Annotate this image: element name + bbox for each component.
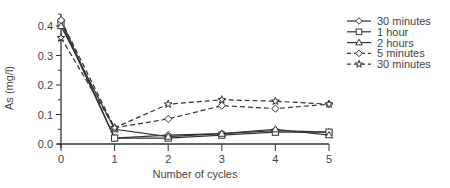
series-30-minutes-solid [57,17,332,142]
y-axis-title: As (mg/l) [3,66,15,110]
series-line [61,26,329,137]
axes: 0.00.10.20.30.4012345 [38,14,332,165]
series-line [61,20,329,128]
y-tick-label: 0.2 [38,79,53,91]
x-tick-label: 0 [58,153,64,165]
legend: 30 minutes1 hour2 hours5 minutes30 minut… [347,15,431,70]
diamond-marker [356,50,363,57]
y-tick-label: 0.3 [38,50,53,62]
diamond-marker [356,18,363,25]
series-1-hour-solid [58,20,332,141]
series-5-minutes-dashed [57,17,332,132]
series-line [61,20,329,138]
star-marker [57,34,65,41]
square-marker [112,135,118,141]
x-tick-label: 4 [272,153,278,165]
y-tick-label: 0.4 [38,20,53,32]
diamond-marker [272,105,279,112]
series-line [61,38,329,128]
star-marker [355,60,362,67]
series-2-hours-solid [57,22,332,139]
star-marker [164,100,172,107]
star-marker [272,97,280,104]
x-tick-label: 5 [326,153,332,165]
x-axis-title: Number of cycles [153,168,238,180]
x-tick-label: 3 [219,153,225,165]
square-marker [356,29,362,35]
y-tick-label: 0.1 [38,109,53,121]
legend-label: 30 minutes [377,58,431,70]
y-tick-label: 0.0 [38,138,53,150]
x-tick-label: 1 [112,153,118,165]
star-marker [218,96,226,103]
series-line [61,23,329,138]
series-30-minutes-dashed [57,34,333,131]
series-group [57,17,333,142]
line-chart: 0.00.10.20.30.4012345 30 minutes1 hour2 … [0,0,450,188]
legend-item: 30 minutes [347,58,431,70]
diamond-marker [165,115,172,122]
star-marker [325,100,333,107]
x-tick-label: 2 [165,153,171,165]
